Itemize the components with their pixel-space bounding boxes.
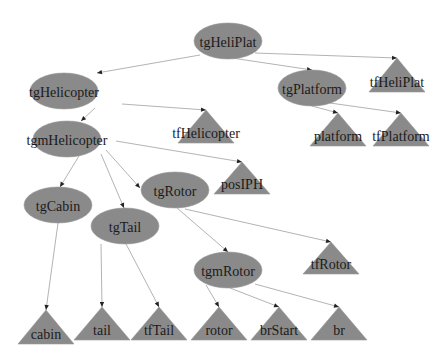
leaf-node-brStart[interactable]: brStart: [251, 307, 307, 340]
arrowhead-icon: [326, 239, 331, 243]
leaf-node-tfTail[interactable]: tfTail: [131, 307, 187, 340]
edge-tgmRotor-to-br: [255, 284, 339, 308]
node-label: tgHeliPlat: [200, 35, 257, 50]
edge-line: [101, 154, 124, 208]
edge-tgHeliPlat-to-tfHeliPlat: [255, 53, 397, 60]
leaf-node-tfRotor[interactable]: tfRotor: [303, 242, 359, 274]
node-label: tgHelicopter: [29, 85, 99, 100]
group-node-tgHelicopter[interactable]: tgHelicopter: [29, 73, 99, 109]
edge-line: [232, 58, 312, 70]
group-node-tgTail[interactable]: tgTail: [91, 208, 159, 244]
node-label: tgPlatform: [282, 82, 342, 97]
arrowhead-icon: [274, 303, 279, 307]
node-label: platform: [314, 129, 362, 144]
arrowhead-icon: [60, 182, 64, 187]
leaf-node-rotor[interactable]: rotor: [191, 307, 247, 340]
leaf-node-tail[interactable]: tail: [74, 307, 130, 340]
edge-line: [185, 209, 331, 242]
arrowhead-icon: [45, 305, 49, 310]
node-label: tfHelicopter: [172, 126, 240, 141]
node-label: tail: [93, 323, 111, 338]
edge-line: [330, 103, 401, 113]
node-label: tgCabin: [36, 199, 80, 214]
group-node-tgHeliPlat[interactable]: tgHeliPlat: [194, 23, 262, 59]
node-label: tgmHelicopter: [27, 133, 108, 148]
node-label: tfTail: [144, 323, 174, 338]
edge-line: [255, 53, 397, 58]
node-label: tfRotor: [311, 257, 352, 272]
leaf-node-cabin[interactable]: cabin: [18, 310, 74, 344]
group-node-tgmRotor[interactable]: tgmRotor: [194, 252, 262, 288]
edge-tgHeliPlat-to-tgPlatform: [232, 58, 312, 71]
group-node-tgRotor[interactable]: tgRotor: [141, 172, 209, 208]
node-label: tgTail: [109, 220, 142, 235]
node-label: posIPH: [221, 177, 263, 192]
edge-line: [101, 244, 102, 307]
edge-tgmHelicopter-to-tgRotor: [106, 150, 140, 188]
node-label: tgmRotor: [201, 264, 255, 279]
group-node-tgCabin[interactable]: tgCabin: [24, 187, 92, 223]
arrowhead-icon: [97, 70, 102, 74]
leaf-node-posIPH[interactable]: posIPH: [214, 162, 270, 194]
node-label: rotor: [205, 323, 233, 338]
edge-line: [230, 288, 279, 307]
edge-tgRotor-to-tgmRotor: [177, 208, 228, 252]
leaf-node-tfHeliPlat[interactable]: tfHeliPlat: [369, 58, 425, 92]
edge-line: [126, 244, 159, 307]
edge-tgmHelicopter-to-tgTail: [101, 154, 124, 208]
node-label: tgRotor: [154, 184, 197, 199]
edge-tgmRotor-to-rotor: [206, 285, 219, 307]
group-nodes-layer: tgHeliPlattgHelicoptertgPlatformtgmHelic…: [24, 23, 346, 288]
scene-graph-diagram: tgHeliPlattgHelicoptertgPlatformtgmHelic…: [0, 0, 445, 359]
edge-tgRotor-to-tfRotor: [185, 209, 331, 243]
edge-line: [106, 150, 140, 188]
edge-tgmHelicopter-to-tgCabin: [60, 156, 79, 187]
edge-tgPlatform-to-tfPlatform: [330, 103, 401, 114]
edge-tgHelicopter-to-tgmHelicopter: [81, 108, 95, 121]
leaf-node-platform[interactable]: platform: [310, 113, 366, 146]
edge-tgHeliPlat-to-tgHelicopter: [97, 55, 200, 74]
edge-tgTail-to-tfTail: [126, 244, 159, 307]
edge-tgHelicopter-to-tfHelicopter: [122, 104, 206, 112]
arrowhead-icon: [100, 302, 104, 307]
edge-line: [60, 156, 79, 187]
edge-tgPlatform-to-platform: [312, 106, 338, 114]
leaf-node-tfHelicopter[interactable]: tfHelicopter: [172, 110, 240, 143]
edge-line: [177, 208, 228, 252]
node-label: br: [333, 323, 345, 338]
arrowhead-icon: [215, 302, 219, 307]
leaf-node-tfPlatform[interactable]: tfPlatform: [372, 113, 430, 146]
edge-line: [97, 55, 200, 73]
node-label: tfPlatform: [372, 129, 430, 144]
edge-line: [122, 104, 206, 110]
edge-tgmHelicopter-to-posIPH: [116, 141, 242, 163]
node-label: tfHeliPlat: [370, 75, 425, 90]
edge-tgmRotor-to-brStart: [230, 288, 279, 307]
leaf-node-br[interactable]: br: [311, 307, 367, 340]
edge-line: [116, 141, 242, 162]
node-label: brStart: [260, 323, 298, 338]
group-node-tgPlatform[interactable]: tgPlatform: [278, 70, 346, 106]
edge-tgTail-to-tail: [100, 244, 104, 307]
edge-line: [46, 223, 58, 310]
node-label: cabin: [31, 327, 61, 342]
group-node-tgmHelicopter[interactable]: tgmHelicopter: [27, 121, 108, 157]
edge-line: [255, 284, 339, 307]
edge-tgCabin-to-cabin: [45, 223, 58, 310]
